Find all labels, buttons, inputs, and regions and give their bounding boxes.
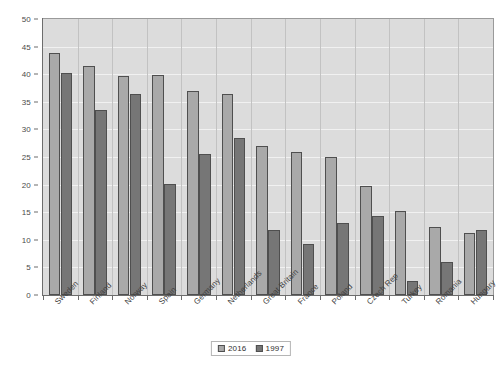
y-axis-tick-label: 45 xyxy=(22,42,31,51)
category-separator xyxy=(285,19,286,295)
category-separator xyxy=(424,19,425,295)
bar-hungary-2016 xyxy=(464,233,476,295)
bar-group xyxy=(181,19,216,295)
category-separator xyxy=(181,19,182,295)
bar-romania-2016 xyxy=(429,227,441,295)
y-axis-tick-label: 5 xyxy=(26,263,31,272)
bar-group xyxy=(320,19,355,295)
y-axis-tick-label: 20 xyxy=(22,180,31,189)
category-separator xyxy=(147,19,148,295)
y-axis-tick xyxy=(34,239,38,240)
y-axis-tick-label: 10 xyxy=(22,235,31,244)
category-separator xyxy=(320,19,321,295)
y-axis-tick xyxy=(34,46,38,47)
category-separator xyxy=(112,19,113,295)
bar-sweden-2016 xyxy=(49,53,61,295)
legend-label-2016: 2016 xyxy=(228,344,247,353)
y-axis-tick-label: 0 xyxy=(26,291,31,300)
bar-chart: 05101520253035404550 SwedenFinlandNorway… xyxy=(0,0,502,372)
bars-container xyxy=(43,19,493,295)
bar-group xyxy=(43,19,78,295)
bar-turkey-2016 xyxy=(395,211,407,295)
legend-swatch-icon-1997 xyxy=(256,345,263,352)
y-axis-tick-label: 40 xyxy=(22,70,31,79)
category-separator xyxy=(458,19,459,295)
bar-norway-1997 xyxy=(130,94,142,295)
bar-group xyxy=(389,19,424,295)
category-separator xyxy=(355,19,356,295)
bar-group xyxy=(112,19,147,295)
y-axis-tick xyxy=(34,74,38,75)
legend-swatch-icon-2016 xyxy=(218,345,225,352)
bar-group xyxy=(458,19,493,295)
bar-group xyxy=(147,19,182,295)
bar-germany-1997 xyxy=(199,154,211,295)
bar-netherlands-1997 xyxy=(234,138,246,295)
bar-group xyxy=(216,19,251,295)
bar-finland-2016 xyxy=(83,66,95,295)
y-axis-tick xyxy=(34,267,38,268)
legend-label-1997: 1997 xyxy=(266,344,285,353)
y-axis-tick-label: 35 xyxy=(22,97,31,106)
y-axis-tick xyxy=(34,101,38,102)
bar-group xyxy=(285,19,320,295)
bar-germany-2016 xyxy=(187,91,199,295)
bar-finland-1997 xyxy=(95,110,107,295)
y-axis-tick xyxy=(34,129,38,130)
chart-legend: 2016 1997 xyxy=(211,341,291,356)
bar-spain-1997 xyxy=(164,184,176,295)
y-axis-tick-label: 25 xyxy=(22,153,31,162)
y-axis-tick xyxy=(34,295,38,296)
bar-group xyxy=(251,19,286,295)
x-axis-labels: SwedenFinlandNorwaySpainGermanyNetherlan… xyxy=(43,300,493,345)
category-separator xyxy=(389,19,390,295)
y-axis-tick xyxy=(34,157,38,158)
bar-group xyxy=(78,19,113,295)
y-axis-labels: 05101520253035404550 xyxy=(0,18,38,296)
bar-group xyxy=(424,19,459,295)
bar-poland-2016 xyxy=(325,157,337,295)
bar-group xyxy=(355,19,390,295)
y-axis-tick xyxy=(34,212,38,213)
y-axis-tick-label: 30 xyxy=(22,125,31,134)
bar-spain-2016 xyxy=(152,75,164,295)
y-axis-tick xyxy=(34,184,38,185)
y-axis-tick-label: 15 xyxy=(22,208,31,217)
bar-czech-rep-2016 xyxy=(360,186,372,295)
category-separator xyxy=(216,19,217,295)
legend-item-1997: 1997 xyxy=(256,344,285,353)
y-axis-tick-label: 50 xyxy=(22,15,31,24)
bar-norway-2016 xyxy=(118,76,130,295)
legend-item-2016: 2016 xyxy=(218,344,247,353)
bar-netherlands-2016 xyxy=(222,94,234,296)
x-axis-tick xyxy=(493,296,494,300)
category-separator xyxy=(78,19,79,295)
category-separator xyxy=(251,19,252,295)
y-axis-tick xyxy=(34,19,38,20)
bar-sweden-1997 xyxy=(61,73,73,296)
